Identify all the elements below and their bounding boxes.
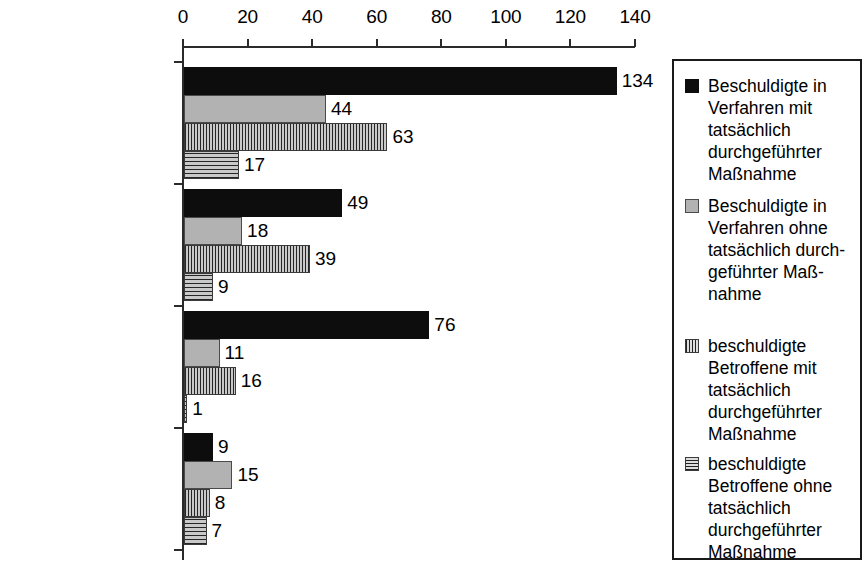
- bar-1-1: [184, 67, 617, 95]
- bar-2-2: [184, 217, 242, 245]
- legend-label: beschuldigte Betroffene ohne tatsächlich…: [708, 453, 832, 563]
- y-axis-tick-mark: [174, 549, 183, 551]
- x-axis-tick-label: 0: [178, 6, 188, 28]
- y-axis-tick-mark: [174, 427, 183, 429]
- x-axis-tick-mark: [247, 39, 249, 47]
- bar-value-label: 18: [247, 217, 268, 245]
- x-axis-tick-label: 80: [431, 6, 452, 28]
- bar-value-label: 9: [218, 433, 229, 461]
- bar-4-4: [184, 517, 207, 545]
- bar-value-label: 63: [392, 123, 413, 151]
- y-axis-tick-mark: [174, 305, 183, 307]
- bar-value-label: 134: [622, 67, 654, 95]
- bar-3-2: [184, 339, 220, 367]
- bar-4-3: [184, 489, 210, 517]
- bar-value-label: 16: [241, 367, 262, 395]
- x-axis-tick-label: 100: [490, 6, 521, 28]
- x-axis-tick-label: 140: [619, 6, 650, 28]
- x-axis-tick-mark: [440, 39, 442, 47]
- x-axis-tick-mark: [634, 39, 636, 47]
- chart-plot-area: 020406080100120140 AlleMord/TotschlagBtM…: [0, 0, 668, 579]
- bar-value-label: 17: [244, 151, 265, 179]
- bar-value-label: 39: [315, 245, 336, 273]
- x-axis-tick-label: 60: [366, 6, 387, 28]
- bar-4-2: [184, 461, 232, 489]
- legend-swatch-icon-1: [685, 79, 699, 93]
- legend-item-1: Beschuldigte in Verfahren mit tatsächlic…: [685, 75, 857, 185]
- legend-item-3: beschuldigte Betroffene mit tatsächlich …: [685, 335, 857, 445]
- bar-value-label: 49: [347, 189, 368, 217]
- y-axis-tick-mark: [174, 183, 183, 185]
- x-axis-tick-mark: [311, 39, 313, 47]
- bar-3-1: [184, 311, 429, 339]
- bar-value-label: 11: [225, 339, 245, 367]
- bar-3-4: [184, 395, 187, 423]
- bar-value-label: 8: [215, 489, 226, 517]
- legend-swatch-icon-2: [685, 199, 699, 213]
- legend-swatch-icon-3: [685, 339, 699, 353]
- bar-4-1: [184, 433, 213, 461]
- x-axis-tick-label: 120: [555, 6, 586, 28]
- legend-item-2: Beschuldigte in Verfahren ohne tatsächli…: [685, 195, 857, 305]
- bar-2-3: [184, 245, 310, 273]
- bar-1-4: [184, 151, 239, 179]
- bar-value-label: 76: [434, 311, 455, 339]
- bar-value-label: 1: [192, 395, 203, 423]
- bar-1-2: [184, 95, 326, 123]
- x-axis-tick-mark: [376, 39, 378, 47]
- legend-label: Beschuldigte in Verfahren ohne tatsächli…: [708, 195, 845, 305]
- y-axis-tick-mark: [174, 61, 183, 63]
- bar-1-3: [184, 123, 387, 151]
- legend-item-4: beschuldigte Betroffene ohne tatsächlich…: [685, 453, 857, 563]
- bar-3-3: [184, 367, 236, 395]
- x-axis-tick-label: 20: [237, 6, 258, 28]
- bar-value-label: 44: [331, 95, 352, 123]
- x-axis-tick-label: 40: [302, 6, 323, 28]
- bar-2-1: [184, 189, 342, 217]
- x-axis-line: [183, 46, 635, 48]
- legend-label: beschuldigte Betroffene mit tatsächlich …: [708, 335, 822, 445]
- x-axis-tick-mark: [182, 39, 184, 47]
- chart-legend: Beschuldigte in Verfahren mit tatsächlic…: [672, 59, 862, 560]
- bar-value-label: 15: [237, 461, 258, 489]
- bar-value-label: 7: [212, 517, 223, 545]
- legend-swatch-icon-4: [685, 457, 699, 471]
- x-axis-tick-mark: [505, 39, 507, 47]
- x-axis-tick-mark: [569, 39, 571, 47]
- bar-value-label: 9: [218, 273, 229, 301]
- legend-label: Beschuldigte in Verfahren mit tatsächlic…: [708, 75, 827, 185]
- bar-2-4: [184, 273, 213, 301]
